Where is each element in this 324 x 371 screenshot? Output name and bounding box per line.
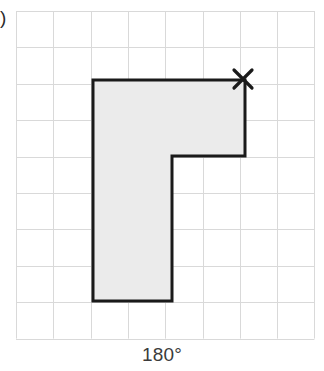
grid-and-shape-canvas (0, 0, 324, 371)
l-shaped-polygon (93, 80, 245, 301)
figure-root: ) 180° (0, 0, 324, 371)
rotation-angle-caption: 180° (0, 343, 324, 367)
